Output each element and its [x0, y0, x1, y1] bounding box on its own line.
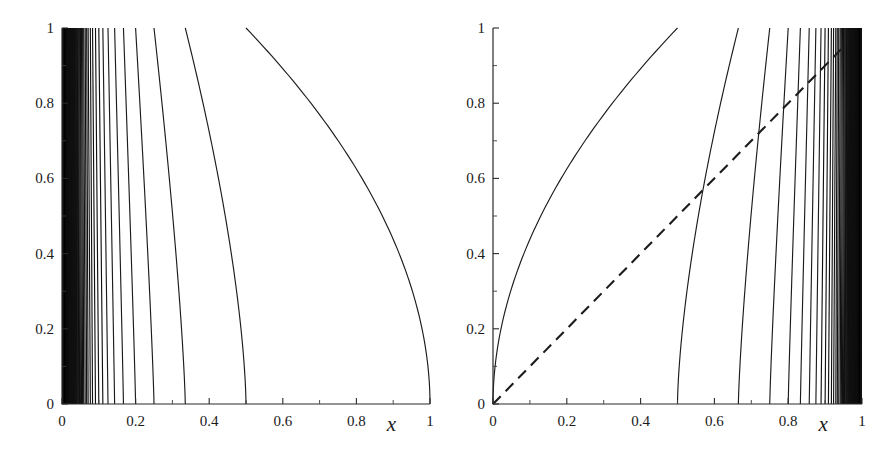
identity-dashed-line — [493, 47, 844, 404]
figure-canvas: 00.20.40.60.8100.20.40.60.81x 00.20.40.6… — [0, 0, 887, 469]
left-ytick-label-3: 0.6 — [35, 170, 54, 186]
left-xtick-label-1: 0.2 — [126, 413, 145, 429]
left-curve-7 — [108, 28, 115, 404]
right-ytick-label-3: 0.6 — [466, 170, 485, 186]
left-ytick-label-5: 1 — [47, 20, 55, 36]
right-ytick-label-5: 1 — [478, 20, 486, 36]
left-curve-8 — [103, 28, 108, 404]
right-curve-10 — [825, 28, 828, 404]
right-panel: 00.20.40.60.8100.20.40.60.81x — [440, 0, 887, 469]
left-ytick-label-2: 0.4 — [35, 246, 54, 262]
left-curve-5 — [123, 28, 135, 404]
right-axis-labels: 00.20.40.60.8100.20.40.60.81x — [466, 20, 866, 436]
right-curve-12 — [831, 28, 833, 404]
right-curve-4 — [770, 28, 788, 404]
left-xtick-label-2: 0.4 — [200, 413, 219, 429]
right-ytick-label-0: 0 — [478, 396, 486, 412]
right-curve-2 — [678, 28, 739, 404]
right-xtick-label-2: 0.4 — [631, 413, 650, 429]
right-curve-5 — [788, 28, 800, 404]
right-panel-svg: 00.20.40.60.8100.20.40.60.81x — [440, 0, 887, 469]
left-xtick-label-5: 1 — [426, 413, 434, 429]
left-axes — [62, 28, 430, 404]
left-xaxis-name: x — [386, 412, 397, 436]
right-curve-11 — [828, 28, 831, 404]
left-curve-12 — [90, 28, 92, 404]
identity-line-dashed — [493, 47, 844, 404]
right-curve-8 — [816, 28, 821, 404]
left-curve-3 — [154, 28, 185, 404]
left-xtick-label-3: 0.6 — [273, 413, 292, 429]
left-xtick-label-4: 0.8 — [347, 413, 366, 429]
left-ytick-label-4: 0.8 — [35, 95, 54, 111]
left-ytick-label-1: 0.2 — [35, 321, 54, 337]
left-curve-11 — [93, 28, 96, 404]
right-xtick-label-5: 1 — [858, 413, 866, 429]
right-xtick-label-0: 0 — [489, 413, 497, 429]
right-xtick-label-4: 0.8 — [779, 413, 798, 429]
right-curve-3 — [738, 28, 769, 404]
right-xtick-label-1: 0.2 — [557, 413, 576, 429]
left-plot-area — [63, 28, 430, 404]
left-xtick-label-0: 0 — [58, 413, 66, 429]
right-ytick-label-2: 0.4 — [466, 246, 485, 262]
left-curve-2 — [185, 28, 246, 404]
right-curve-1 — [493, 28, 678, 404]
right-curve-9 — [821, 28, 825, 404]
left-curve-6 — [115, 28, 124, 404]
right-curve-6 — [800, 28, 809, 404]
left-curve-10 — [95, 28, 98, 404]
left-panel-svg: 00.20.40.60.8100.20.40.60.81x — [0, 0, 447, 469]
right-curve-7 — [809, 28, 816, 404]
left-curve-1 — [246, 28, 430, 404]
right-xtick-label-3: 0.6 — [705, 413, 724, 429]
right-ytick-label-1: 0.2 — [466, 321, 485, 337]
left-panel: 00.20.40.60.8100.20.40.60.81x — [0, 0, 447, 469]
right-ytick-label-4: 0.8 — [466, 95, 485, 111]
left-axis-lines — [62, 28, 430, 404]
left-ytick-label-0: 0 — [47, 396, 55, 412]
left-curve-4 — [136, 28, 154, 404]
left-curve-9 — [99, 28, 103, 404]
right-xaxis-name: x — [818, 412, 829, 436]
